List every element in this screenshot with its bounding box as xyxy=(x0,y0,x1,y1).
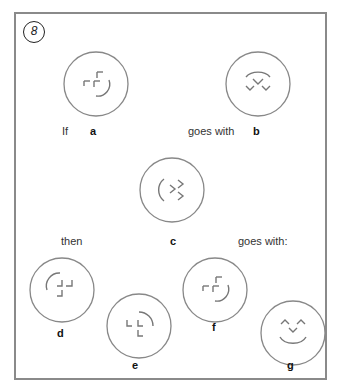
figure-d-glyph-icon xyxy=(46,273,72,296)
figure-c-glyph-icon xyxy=(159,179,183,201)
figure-a[interactable] xyxy=(64,52,128,116)
figure-f[interactable] xyxy=(183,258,247,322)
label-a: a xyxy=(90,125,96,137)
figure-g-ring xyxy=(261,301,325,365)
figure-b[interactable] xyxy=(226,52,290,116)
figure-f-ring xyxy=(183,258,247,322)
figure-c-ring xyxy=(140,158,204,222)
label-g: g xyxy=(287,359,294,371)
label-b: b xyxy=(253,125,260,137)
text-then: then xyxy=(61,235,82,247)
text-goes-with-1: goes with xyxy=(188,125,234,137)
figure-b-glyph-icon xyxy=(246,72,270,90)
figure-c[interactable] xyxy=(140,158,204,222)
figure-d[interactable] xyxy=(30,258,94,322)
label-d: d xyxy=(57,327,64,339)
label-e: e xyxy=(132,359,138,371)
text-goes-with-2: goes with: xyxy=(238,235,288,247)
figure-g[interactable] xyxy=(261,301,325,365)
figure-e-glyph-icon xyxy=(127,312,153,336)
figure-a-ring xyxy=(64,52,128,116)
label-f: f xyxy=(212,321,216,333)
figure-f-glyph-icon xyxy=(203,277,229,301)
text-if: If xyxy=(62,125,68,137)
figure-e[interactable] xyxy=(107,294,171,358)
label-c: c xyxy=(170,235,176,247)
figures-canvas xyxy=(0,0,350,389)
figure-a-glyph-icon xyxy=(84,72,110,96)
figure-g-glyph-icon xyxy=(280,320,306,343)
